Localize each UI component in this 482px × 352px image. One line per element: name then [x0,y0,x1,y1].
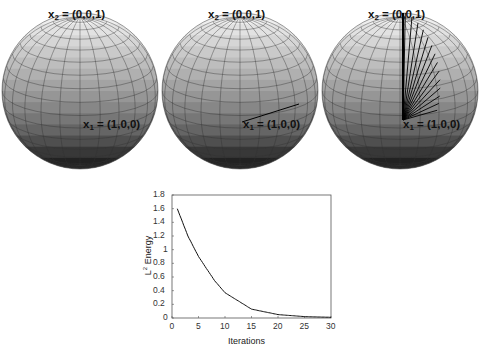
x-tick-label: 10 [220,321,229,331]
label-value: = (1,0,0) [254,118,300,130]
y-tick-label: 1.4 [153,216,165,226]
x-tick-label: 30 [326,321,335,331]
plot-area [172,195,331,318]
y-tick-label: 0.2 [153,298,165,308]
top-label-x2: x2 = (0,0,1) [48,8,105,22]
bottom-label-x1: x1 = (1,0,0) [83,118,140,132]
energy-chart [172,195,331,318]
y-tick-label: 1.8 [153,189,165,199]
x-tick-label: 25 [300,321,309,331]
label-value: = (0,0,1) [379,8,425,20]
x-tick-label: 15 [247,321,256,331]
x-tick-label: 5 [196,321,201,331]
label-value: = (1,0,0) [414,118,460,130]
x-tick-label: 20 [273,321,282,331]
label-value: = (1,0,0) [94,118,140,130]
top-label-x2: x2 = (0,0,1) [368,8,425,22]
y-axis-label: L2 Energy [142,236,153,275]
y-tick-label: 1 [163,244,168,254]
x-tick-label: 0 [170,321,175,331]
y-tick-label: 0 [163,312,168,322]
bottom-label-x1: x1 = (1,0,0) [403,118,460,132]
x-axis-label: Iterations [228,336,265,346]
y-tick-label: 0.8 [153,257,165,267]
bottom-label-x1: x1 = (1,0,0) [243,118,300,132]
y-tick-label: 0.4 [153,285,165,295]
y-tick-label: 1.2 [153,230,165,240]
label-value: = (0,0,1) [59,8,105,20]
y-tick-label: 1.6 [153,203,165,213]
y-tick-label: 0.6 [153,271,165,281]
top-label-x2: x2 = (0,0,1) [208,8,265,22]
figure [0,0,482,352]
label-value: = (0,0,1) [219,8,265,20]
